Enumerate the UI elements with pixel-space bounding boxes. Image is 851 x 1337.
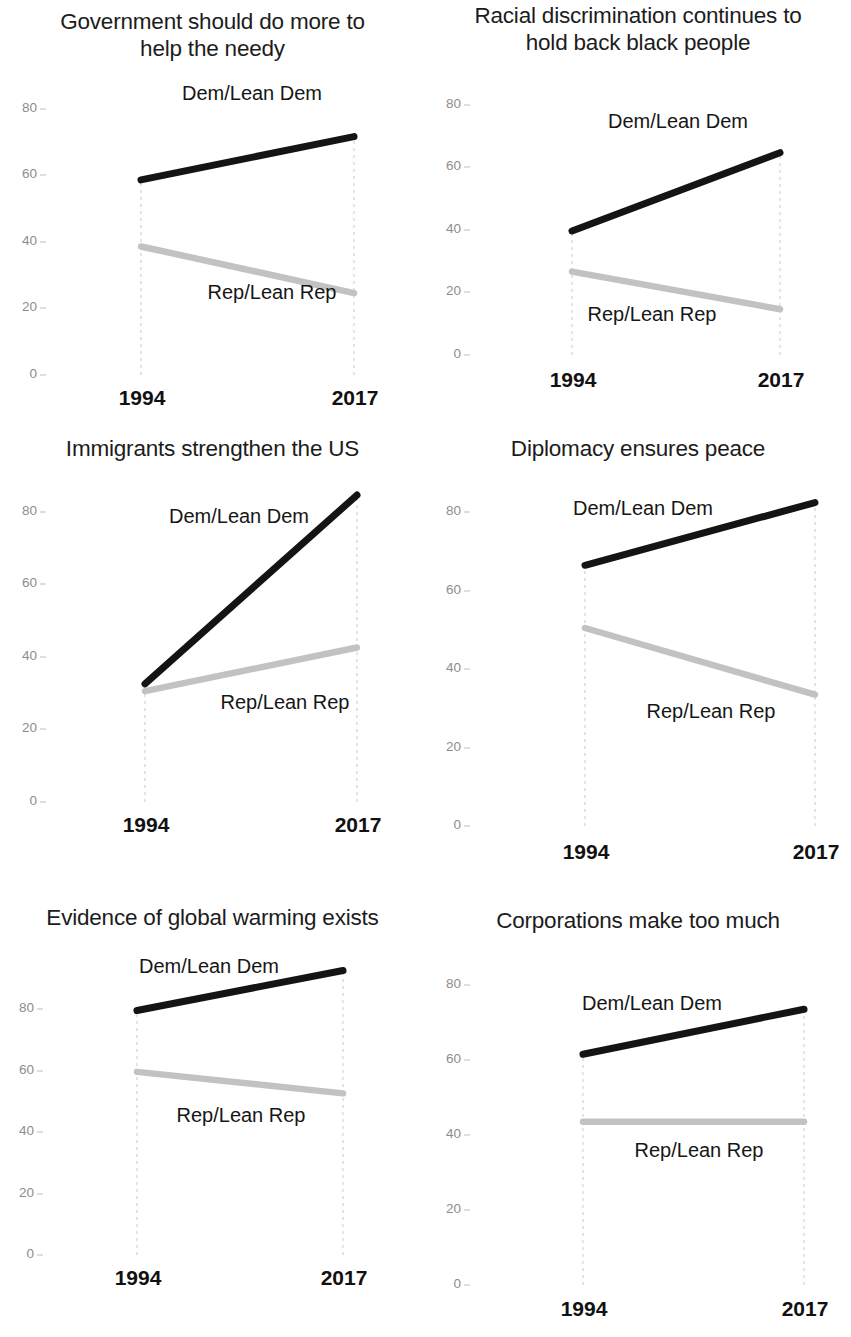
x-axis-label-2017: 2017 bbox=[335, 813, 382, 837]
series-line-dem-lean-dem bbox=[141, 137, 354, 180]
x-axis-label-2017: 2017 bbox=[758, 368, 805, 392]
series-label-rep-lean-rep: Rep/Lean Rep bbox=[221, 691, 350, 714]
series-label-rep-lean-rep: Rep/Lean Rep bbox=[635, 1139, 764, 1162]
panel-plot-area bbox=[0, 0, 425, 425]
series-line-dem-lean-dem bbox=[572, 153, 780, 231]
series-label-rep-lean-rep: Rep/Lean Rep bbox=[177, 1104, 306, 1127]
x-axis-label-1994: 1994 bbox=[550, 368, 597, 392]
series-label-dem-lean-dem: Dem/Lean Dem bbox=[608, 110, 748, 133]
x-axis-label-1994: 1994 bbox=[115, 1266, 162, 1290]
x-axis-label-2017: 2017 bbox=[782, 1297, 829, 1321]
chart-panel-corporations-make-too-much: Corporations make too much020406080Dem/L… bbox=[425, 887, 851, 1337]
chart-panel-immigrants-strengthen-us: Immigrants strengthen the US020406080Dem… bbox=[0, 425, 425, 887]
series-label-dem-lean-dem: Dem/Lean Dem bbox=[182, 82, 322, 105]
chart-panel-government-help-needy: Government should do more tohelp the nee… bbox=[0, 0, 425, 425]
panel-plot-area bbox=[425, 425, 851, 887]
series-label-dem-lean-dem: Dem/Lean Dem bbox=[139, 955, 279, 978]
small-multiples-chart-grid: Government should do more tohelp the nee… bbox=[0, 0, 851, 1337]
series-label-rep-lean-rep: Rep/Lean Rep bbox=[588, 303, 717, 326]
series-line-rep-lean-rep bbox=[585, 628, 815, 695]
series-label-rep-lean-rep: Rep/Lean Rep bbox=[208, 281, 337, 304]
x-axis-label-1994: 1994 bbox=[561, 1297, 608, 1321]
series-line-dem-lean-dem bbox=[583, 1009, 804, 1054]
x-axis-label-1994: 1994 bbox=[563, 840, 610, 864]
chart-panel-diplomacy-ensures-peace: Diplomacy ensures peace020406080Dem/Lean… bbox=[425, 425, 851, 887]
series-label-dem-lean-dem: Dem/Lean Dem bbox=[573, 497, 713, 520]
x-axis-label-1994: 1994 bbox=[123, 813, 170, 837]
x-axis-label-2017: 2017 bbox=[321, 1266, 368, 1290]
x-axis-label-2017: 2017 bbox=[332, 386, 379, 410]
x-axis-label-2017: 2017 bbox=[793, 840, 840, 864]
chart-panel-racial-discrimination: Racial discrimination continues tohold b… bbox=[425, 0, 851, 425]
x-axis-label-1994: 1994 bbox=[119, 386, 166, 410]
series-label-dem-lean-dem: Dem/Lean Dem bbox=[582, 992, 722, 1015]
series-line-rep-lean-rep bbox=[137, 1072, 343, 1093]
series-label-dem-lean-dem: Dem/Lean Dem bbox=[169, 505, 309, 528]
panel-plot-area bbox=[425, 887, 851, 1337]
chart-panel-global-warming-evidence: Evidence of global warming exists0204060… bbox=[0, 887, 425, 1337]
panel-plot-area bbox=[425, 0, 851, 425]
series-label-rep-lean-rep: Rep/Lean Rep bbox=[647, 700, 776, 723]
